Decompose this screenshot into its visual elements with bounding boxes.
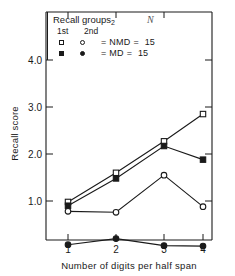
legend-row-md: = MD = 15 xyxy=(53,48,201,58)
y-tick-labels: 4.0 3.0 2.0 1.0 xyxy=(28,55,42,207)
data-point-s2-x1 xyxy=(65,209,71,215)
series-3 xyxy=(65,236,206,249)
legend-eq-2: = xyxy=(130,37,141,47)
data-point-s2-x2 xyxy=(113,209,119,215)
legend-symbol-cell-2nd-md xyxy=(80,51,98,56)
chart-legend: Recall groups2 N 1st 2nd = NMD = 15 xyxy=(47,12,201,60)
legend-row-nmd: = NMD = 15 xyxy=(53,37,201,47)
data-series-layer xyxy=(65,111,206,249)
data-point-s2-x4 xyxy=(200,204,206,210)
legend-count-md: 15 xyxy=(135,48,148,58)
legend-label-nmd: NMD xyxy=(109,37,130,47)
series-line-0 xyxy=(68,114,203,202)
y-tick-label-3: 3.0 xyxy=(28,102,42,113)
x-axis-ticks xyxy=(68,234,203,240)
data-point-s2-x3 xyxy=(161,172,167,178)
filled-square-icon xyxy=(59,51,64,56)
legend-col2-head: 2nd xyxy=(84,27,98,37)
legend-header: Recall groups2 N xyxy=(53,14,201,26)
y-axis-ticks xyxy=(46,60,53,201)
legend-eq-3: = xyxy=(98,48,109,58)
legend-eq-4: = xyxy=(124,48,135,58)
legend-column-heads: 1st 2nd xyxy=(53,27,201,37)
y-tick-label-4: 4.0 xyxy=(28,55,42,66)
filled-circle-icon xyxy=(80,51,85,56)
legend-header-label: Recall groups xyxy=(53,14,111,25)
data-point-s3-x3 xyxy=(161,243,167,249)
open-square-icon xyxy=(59,40,64,45)
data-point-s0-x4 xyxy=(200,111,205,116)
x-tick-label-2: 2 xyxy=(113,244,119,255)
open-circle-icon xyxy=(80,40,85,45)
legend-eq-1: = xyxy=(98,37,109,47)
x-axis-title: Number of digits per half span xyxy=(61,260,197,271)
legend-symbol-cell-1st xyxy=(53,40,80,45)
legend-header-text: Recall groups2 xyxy=(53,15,115,26)
legend-count-nmd: 15 xyxy=(142,37,155,47)
data-point-s0-x2 xyxy=(113,170,118,175)
y-tick-label-1: 1.0 xyxy=(28,196,42,207)
data-point-s1-x1 xyxy=(65,203,70,208)
series-1 xyxy=(65,143,205,208)
legend-header-subscript: 2 xyxy=(111,19,115,26)
legend-label-md: MD xyxy=(109,48,123,58)
data-point-s3-x1 xyxy=(65,242,71,248)
y-axis-title: Recall score xyxy=(9,99,20,169)
right-axis-ticks xyxy=(205,60,212,201)
data-point-s3-x4 xyxy=(200,243,206,249)
data-point-s1-x2 xyxy=(113,176,118,181)
legend-col1-head: 1st xyxy=(57,27,84,37)
legend-n-symbol: N xyxy=(147,14,154,25)
data-point-s3-x2 xyxy=(113,236,119,242)
y-tick-label-2: 2.0 xyxy=(28,149,42,160)
legend-symbol-cell-2nd xyxy=(80,40,98,45)
chart-figure: 4.0 3.0 2.0 1.0 1 2 3 4 Number of digits… xyxy=(0,0,235,276)
legend-symbol-cell-1st-md xyxy=(53,51,80,56)
series-2 xyxy=(65,172,206,215)
data-point-s1-x4 xyxy=(200,157,205,162)
data-point-s1-x3 xyxy=(161,143,166,148)
series-0 xyxy=(65,111,205,204)
